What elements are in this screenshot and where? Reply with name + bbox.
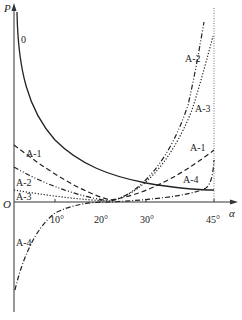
tick-label-30: 30° <box>140 214 154 225</box>
x-axis-arrow-icon <box>230 200 238 205</box>
x-axis-label: α <box>229 207 235 219</box>
y-axis-arrow-icon <box>12 3 17 11</box>
y-axis-label: P <box>3 2 11 14</box>
curve-label-a2-right: A-2 <box>185 53 201 64</box>
curve-label-a4-right: A-4 <box>183 174 199 185</box>
origin-label: O <box>3 198 11 210</box>
curve-a2 <box>14 22 204 201</box>
tick-label-45: 45° <box>206 214 220 225</box>
curve-label-a3-right: A-3 <box>195 103 211 114</box>
curve-label-a2-left: A-2 <box>16 177 32 188</box>
tick-label-10: 10° <box>50 214 64 225</box>
curve-0 <box>17 12 214 190</box>
curve-label-a4-left: A-4 <box>16 237 32 248</box>
curve-label-a3-left: A-3 <box>16 191 32 202</box>
chart-canvas: P α O 10° 20° 30° 45° 0 A-1 A-2 A-3 A-4 … <box>0 0 242 320</box>
tick-label-20: 20° <box>94 214 108 225</box>
curve-label-a1-left: A-1 <box>26 148 42 159</box>
curve-label-0: 0 <box>21 34 26 45</box>
curve-label-a1-right: A-1 <box>190 142 206 153</box>
curve-a1 <box>14 145 214 200</box>
